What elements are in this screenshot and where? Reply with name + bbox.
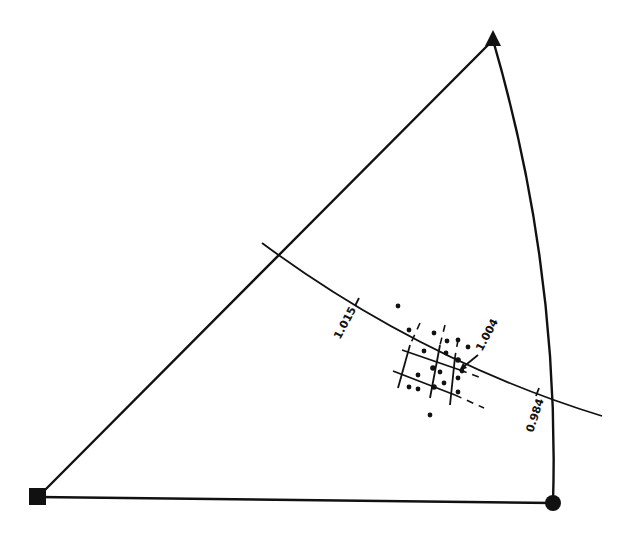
contour-label-right: 0.984 [523,396,546,433]
triangle-vertex-icon [485,30,501,46]
contour-label-center: 1.004 [473,316,501,353]
bottom-edge [38,497,553,503]
error-band-dash [440,325,445,345]
contour-label-left: 1.015 [331,305,359,342]
error-band-line [450,357,455,405]
tick-mark [355,298,359,306]
error-band-dash [455,395,484,408]
left-edge [38,40,493,497]
error-band-dash [455,340,458,357]
square-vertex-icon [29,488,46,505]
right-arc-edge [493,40,554,503]
circle-vertex-icon [545,495,561,511]
ternary-diagram: 1.015 1.004 0.984 [0,0,626,538]
